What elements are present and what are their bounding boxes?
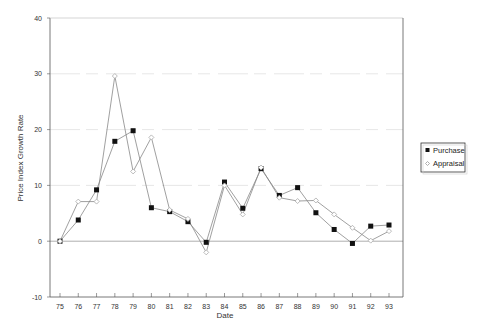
purchase-marker — [76, 217, 81, 222]
appraisal-marker — [131, 169, 136, 174]
x-tick-label: 86 — [257, 303, 265, 310]
x-tick-label: 87 — [275, 303, 283, 310]
series — [58, 74, 392, 255]
purchase-marker — [295, 185, 300, 190]
x-tick-label: 83 — [202, 303, 210, 310]
line-chart: -100102030407576777879808182838485868788… — [0, 0, 486, 331]
appraisal-marker — [240, 212, 245, 217]
y-tick-label: -10 — [32, 294, 42, 301]
appraisal-marker — [94, 199, 99, 204]
x-tick-label: 77 — [93, 303, 101, 310]
y-tick-label: 40 — [34, 15, 42, 22]
appraisal-marker — [76, 199, 81, 204]
appraisal-marker — [368, 238, 373, 243]
x-tick-label: 81 — [166, 303, 174, 310]
chart: -100102030407576777879808182838485868788… — [0, 0, 486, 331]
purchase-marker — [240, 206, 245, 211]
gridlines — [50, 74, 403, 186]
x-tick-label: 82 — [184, 303, 192, 310]
x-tick-label: 85 — [239, 303, 247, 310]
appraisal-marker — [204, 250, 209, 255]
purchase-marker — [94, 187, 99, 192]
x-tick-label: 92 — [367, 303, 375, 310]
y-tick-label: 0 — [38, 238, 42, 245]
x-tick-label: 88 — [294, 303, 302, 310]
appraisal-marker — [295, 199, 300, 204]
x-tick-label: 89 — [312, 303, 320, 310]
y-tick-label: 10 — [34, 182, 42, 189]
axes: -100102030407576777879808182838485868788… — [32, 15, 403, 311]
purchase-marker — [131, 128, 136, 133]
series-line-appraisal — [60, 76, 389, 252]
purchase-marker — [387, 223, 392, 228]
x-tick-label: 75 — [56, 303, 64, 310]
x-tick-label: 90 — [330, 303, 338, 310]
purchase-marker — [112, 139, 117, 144]
appraisal-marker — [387, 229, 392, 234]
y-tick-label: 30 — [34, 70, 42, 77]
x-tick-label: 93 — [385, 303, 393, 310]
x-tick-label: 80 — [147, 303, 155, 310]
purchase-marker — [368, 224, 373, 229]
legend: Purchase Appraisal — [421, 143, 467, 174]
x-tick-label: 91 — [349, 303, 357, 310]
purchase-marker — [313, 210, 318, 215]
purchase-marker — [149, 205, 154, 210]
x-axis-label: Date — [217, 311, 234, 320]
appraisal-marker — [149, 135, 154, 140]
appraisal-marker — [112, 74, 117, 79]
purchase-marker — [350, 241, 355, 246]
purchase-marker — [332, 227, 337, 232]
x-tick-label: 79 — [129, 303, 137, 310]
y-axis-label: Price Index Growth Rate — [16, 114, 25, 202]
purchase-marker — [204, 240, 209, 245]
legend-item-appraisal: Appraisal — [433, 159, 465, 168]
x-tick-label: 84 — [221, 303, 229, 310]
purchase-legend-icon — [426, 148, 430, 152]
x-tick-label: 76 — [74, 303, 82, 310]
legend-item-purchase: Purchase — [433, 146, 465, 155]
x-tick-label: 78 — [111, 303, 119, 310]
y-tick-label: 20 — [34, 126, 42, 133]
